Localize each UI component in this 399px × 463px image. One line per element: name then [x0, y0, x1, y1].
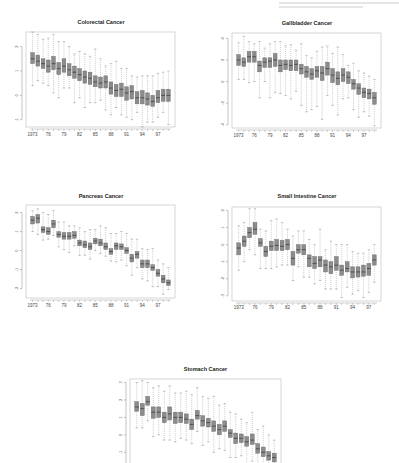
box [179, 393, 183, 438]
box [195, 388, 199, 432]
box [234, 414, 238, 458]
svg-text:3: 3 [119, 381, 124, 384]
box [157, 386, 161, 435]
box [162, 391, 166, 440]
box [146, 382, 150, 420]
box [245, 423, 249, 463]
box [173, 393, 177, 442]
box [212, 396, 216, 452]
boxplot-area: -2-1012319737679828588919497 [0, 0, 399, 463]
chart-stomach-cancer: Stomach Cancer -2-1012319737679828588919… [0, 0, 399, 463]
box [217, 405, 221, 449]
box [250, 412, 254, 461]
box [151, 388, 155, 437]
box [223, 403, 227, 450]
box [256, 430, 260, 463]
box [228, 412, 232, 457]
box [168, 386, 172, 440]
box [140, 381, 144, 428]
box [184, 391, 188, 440]
box [206, 398, 210, 442]
svg-text:-1: -1 [119, 450, 124, 454]
box [190, 395, 194, 444]
box [267, 435, 271, 463]
box [135, 382, 139, 427]
box [261, 426, 265, 463]
box [201, 396, 205, 445]
box [239, 419, 243, 456]
svg-text:0: 0 [119, 433, 124, 436]
svg-text:1: 1 [119, 416, 124, 419]
box [272, 440, 276, 463]
svg-text:2: 2 [119, 398, 124, 401]
